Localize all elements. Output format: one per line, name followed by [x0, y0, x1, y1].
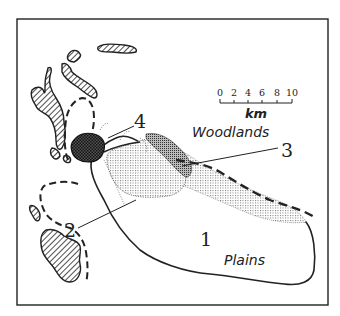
scale-tick-8: 8: [274, 87, 280, 98]
scale-tick-10: 10: [286, 87, 298, 98]
zone-2-label: 2: [64, 219, 76, 241]
zone-4-label: 4: [134, 110, 146, 132]
plains-label: Plains: [224, 252, 265, 268]
zone-4-core: [71, 133, 104, 162]
scale-unit: km: [245, 106, 267, 121]
scale-bar: 0 2 4 6 8 10 km: [217, 87, 298, 121]
scale-tick-6: 6: [259, 87, 265, 98]
zone-3-label: 3: [281, 139, 293, 161]
scale-tick-2: 2: [231, 87, 237, 98]
scale-tick-0: 0: [217, 87, 223, 98]
zone-1-label: 1: [200, 228, 212, 250]
scale-tick-4: 4: [245, 87, 251, 98]
map-figure: 4 3 2 1 Woodlands Plains 0 2 4 6 8 10 km: [0, 0, 340, 316]
woodlands-label: Woodlands: [192, 124, 269, 140]
